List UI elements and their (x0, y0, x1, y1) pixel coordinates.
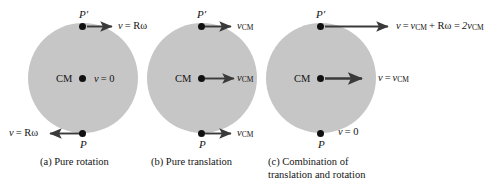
velocity-symbol: v (9, 127, 14, 138)
velocity-label-b-bottom: vCM (237, 128, 253, 139)
label-p-prime-a: P′ (79, 9, 88, 20)
label-cm-a: CM (56, 74, 72, 85)
velocity-label-b-center: vCM (237, 73, 253, 84)
velocity-expression: = 0 (101, 73, 115, 84)
point-cm-c (317, 75, 324, 82)
velocity-plus-term: + Rω = (429, 20, 460, 31)
velocity-vcm-subscript: CM (415, 23, 427, 32)
velocity-equals: = (385, 72, 391, 83)
label-p-b: P (199, 139, 206, 150)
caption-panel-a: (a) Pure rotation (40, 155, 109, 168)
caption-panel-b: (b) Pure translation (151, 155, 232, 168)
velocity-expression: = 0 (345, 126, 359, 137)
velocity-vcm-subscript: CM (397, 75, 409, 84)
velocity-label-a-top: v= Rω (118, 21, 147, 32)
velocity-subscript: CM (242, 75, 254, 84)
velocity-label-a-bottom: v= Rω (9, 128, 38, 139)
caption-panel-c-line2: translation and rotation (268, 168, 365, 181)
velocity-symbol: v (338, 126, 343, 137)
point-p-prime-a (79, 23, 86, 30)
velocity-label-b-top: vCM (237, 21, 253, 32)
velocity-expression: = Rω (16, 127, 38, 138)
label-p-prime-b: P′ (197, 9, 206, 20)
label-p-a: P (80, 139, 87, 150)
label-p-prime-c: P′ (316, 9, 325, 20)
point-cm-b (198, 75, 205, 82)
point-p-b (198, 130, 205, 137)
velocity-equals: = (403, 20, 409, 31)
caption-panel-c-line1: (c) Combination of (268, 155, 365, 168)
velocity-subscript: CM (242, 130, 254, 139)
velocity-label-a-center: v= 0 (94, 74, 114, 85)
velocity-symbol: v (118, 20, 123, 31)
velocity-label-c-bottom: v= 0 (338, 127, 358, 138)
point-p-c (317, 130, 324, 137)
velocity-label-c-center: v=vCM (378, 73, 409, 84)
velocity-result-symbol: 2v (462, 20, 472, 31)
velocity-symbol: v (94, 73, 99, 84)
velocity-symbol: v (378, 72, 383, 83)
rolling-motion-figure: P′ v= Rω CM v= 0 P v= Rω (a) Pure rotati… (0, 0, 500, 182)
label-cm-b: CM (175, 74, 191, 85)
velocity-symbol: v (396, 20, 401, 31)
caption-panel-c: (c) Combination of translation and rotat… (268, 155, 365, 181)
point-cm-a (79, 75, 86, 82)
velocity-result-subscript: CM (472, 23, 484, 32)
point-p-prime-c (317, 23, 324, 30)
velocity-label-c-top: v=vCM+ Rω =2vCM (396, 21, 484, 32)
velocity-expression: = Rω (125, 20, 147, 31)
label-p-c: P (318, 139, 325, 150)
point-p-prime-b (198, 23, 205, 30)
label-cm-c: CM (294, 74, 310, 85)
point-p-a (79, 130, 86, 137)
velocity-subscript: CM (242, 23, 254, 32)
